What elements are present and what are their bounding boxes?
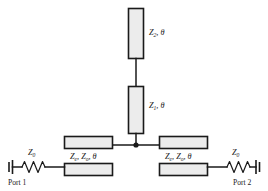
label-z1-impedance: Z1, θ — [149, 101, 164, 111]
label-coupled-line-left: Ze, Zo, θ — [70, 152, 97, 162]
stub-box-z2 — [129, 9, 144, 59]
coupled-line-right-upper-bar — [160, 137, 208, 149]
coupled-line-left-lower-bar — [65, 164, 113, 176]
label-coupled-line-right: Ze, Zo, θ — [165, 152, 192, 162]
port-2-label: Port 2 — [233, 178, 252, 187]
port-1-label: Port 1 — [8, 178, 27, 187]
resistor-port-2 — [227, 162, 250, 173]
coupled-line-left-upper-bar — [65, 137, 113, 149]
resistor-port-1 — [22, 162, 45, 173]
schematic-canvas: Z2, θ Z1, θ Ze, Zo, θ Ze, Zo, θ — [0, 0, 268, 191]
stub-box-z1 — [129, 87, 144, 134]
coupled-line-right-lower-bar — [160, 164, 208, 176]
label-port-2-impedance: Z0 — [232, 148, 240, 158]
junction-node-dot — [133, 142, 138, 147]
label-z2-impedance: Z2, θ — [149, 28, 164, 38]
label-port-1-impedance: Z0 — [28, 148, 36, 158]
ground-symbol-port-2 — [256, 160, 260, 174]
